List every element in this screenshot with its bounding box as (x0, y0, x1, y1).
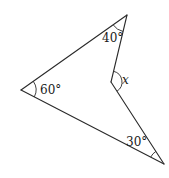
geometry-diagram: 40° 60° x 30° (0, 0, 169, 178)
angle-arc-left (33, 81, 36, 97)
angle-label-bottom-right: 30° (126, 135, 147, 149)
edge-left-top (21, 15, 127, 90)
angle-label-inner: x (122, 73, 129, 87)
edge-bottom-right-left (21, 90, 164, 164)
angle-label-top: 40° (102, 31, 123, 45)
angle-label-left: 60° (40, 83, 61, 97)
angle-arc-bottom-right (151, 151, 156, 157)
